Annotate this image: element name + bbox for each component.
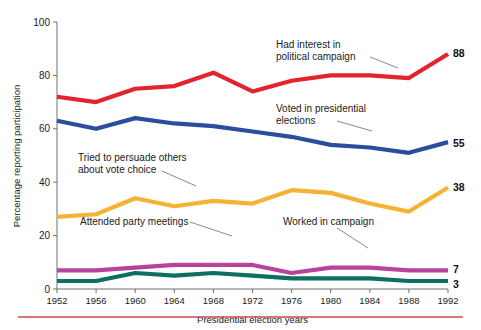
end-value-4: 3: [453, 278, 459, 290]
series-line-2: [57, 188, 448, 217]
annotation-interest-line1: Had interest in: [276, 39, 340, 50]
x-tick-label-1956: 1956: [86, 295, 107, 306]
chart-figure: 0204060801001952195619601964196819721976…: [0, 0, 481, 330]
annotation-interest: Had interest inpolitical campaign: [276, 39, 356, 62]
x-tick-label-1980: 1980: [320, 295, 341, 306]
annotation-worked: Worked in campaign: [283, 216, 374, 227]
end-value-2: 38: [453, 181, 465, 193]
x-tick-label-1976: 1976: [281, 295, 302, 306]
x-tick-label-1968: 1968: [203, 295, 224, 306]
leader-line-persuade: [162, 171, 196, 186]
series-line-3: [57, 265, 448, 273]
annotation-persuade-line1: Tried to persuade others: [78, 152, 187, 163]
y-axis-title: Percentage reporting participation: [11, 85, 22, 228]
x-axis-title: Presidential election years: [197, 314, 308, 325]
annotation-persuade: Tried to persuade othersabout vote choic…: [78, 152, 187, 175]
end-value-0: 88: [453, 47, 465, 59]
x-tick-label-1964: 1964: [164, 295, 185, 306]
annotation-voted-line1: Voted in presidential: [276, 103, 366, 114]
line-chart-canvas: 0204060801001952195619601964196819721976…: [0, 0, 481, 330]
end-value-1: 55: [453, 137, 465, 149]
leader-line-meetings: [190, 222, 232, 236]
y-tick-label: 40: [39, 177, 51, 188]
leader-line-worked: [337, 228, 368, 248]
annotation-worked-line1: Worked in campaign: [283, 216, 374, 227]
x-tick-label-1960: 1960: [125, 295, 146, 306]
annotation-meetings-line1: Attended party meetings: [80, 216, 188, 227]
y-tick-label: 20: [39, 230, 51, 241]
x-tick-label-1992: 1992: [437, 295, 458, 306]
x-tick-label-1972: 1972: [242, 295, 263, 306]
annotation-meetings: Attended party meetings: [80, 216, 188, 227]
y-tick-label: 100: [33, 17, 50, 28]
x-tick-label-1952: 1952: [46, 295, 67, 306]
annotation-interest-line2: political campaign: [276, 51, 356, 62]
series-line-4: [57, 273, 448, 281]
y-tick-label: 80: [39, 70, 51, 81]
annotation-voted-line2: elections: [276, 115, 315, 126]
x-tick-label-1988: 1988: [398, 295, 419, 306]
series-line-1: [57, 118, 448, 153]
leader-line-interest: [370, 57, 398, 68]
leader-line-voted: [337, 121, 372, 131]
annotation-voted: Voted in presidentialelections: [276, 103, 366, 126]
y-tick-label: 0: [44, 284, 50, 295]
y-tick-label: 60: [39, 123, 51, 134]
annotation-persuade-line2: about vote choice: [78, 164, 157, 175]
end-value-3: 7: [453, 263, 459, 275]
x-tick-label-1984: 1984: [359, 295, 380, 306]
series-line-0: [57, 54, 448, 102]
